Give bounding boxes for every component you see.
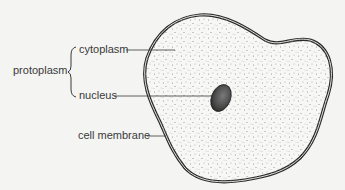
cell-diagram: protoplasm cytoplasm nucleus cell membra… — [0, 0, 345, 190]
label-cell-membrane: cell membrane — [78, 130, 150, 141]
label-nucleus: nucleus — [79, 90, 117, 101]
cell-illustration — [0, 0, 345, 190]
label-cytoplasm: cytoplasm — [79, 44, 129, 55]
protoplasm-brace — [68, 47, 76, 97]
label-protoplasm: protoplasm — [13, 65, 67, 76]
